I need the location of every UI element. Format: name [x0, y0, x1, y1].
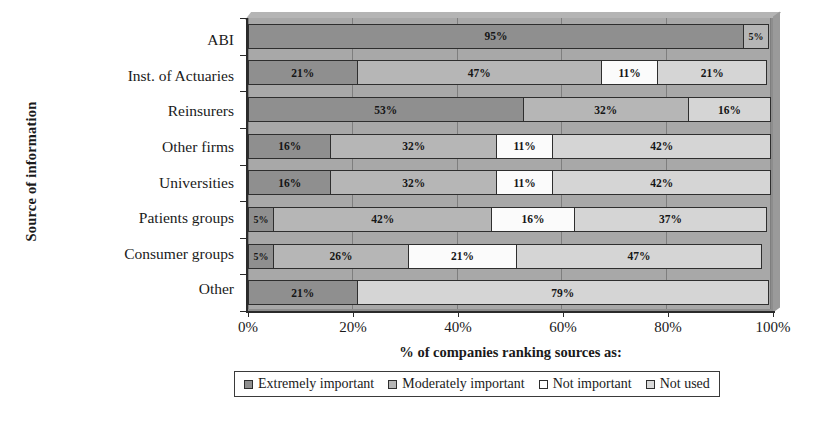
legend-item[interactable]: Not important — [539, 376, 632, 392]
bar-segment[interactable]: 79% — [357, 280, 769, 305]
bar-segment[interactable]: 95% — [248, 24, 744, 49]
y-tick-mark — [240, 201, 247, 202]
chart-legend: Extremely importantModerately importantN… — [234, 371, 720, 397]
bar-segment-label: 16% — [278, 140, 301, 152]
y-tick-mark — [240, 55, 247, 56]
bar-segment[interactable]: 11% — [601, 60, 658, 85]
bar-row[interactable]: 5%42%16%37% — [248, 207, 770, 232]
bar-segment-label: 95% — [484, 30, 507, 42]
y-tick-mark — [240, 238, 247, 239]
y-tick-mark — [240, 128, 247, 129]
bar-row[interactable]: 5%26%21%47% — [248, 244, 770, 269]
bar-segment-label: 11% — [513, 140, 535, 152]
y-tick-mark — [240, 274, 247, 275]
y-axis-line — [246, 18, 248, 313]
bar-segment[interactable]: 53% — [248, 97, 524, 122]
bar-segment-label: 21% — [291, 287, 314, 299]
y-axis-category-label: Inst. of Actuaries — [40, 58, 242, 94]
bar-segment[interactable]: 21% — [408, 244, 518, 269]
bar-row[interactable]: 95%5% — [248, 24, 770, 49]
x-tick-label: 40% — [444, 319, 472, 336]
plot-area: 95%5%21%47%11%21%53%32%16%16%32%11%42%16… — [248, 18, 773, 311]
y-axis-category-label: Consumer groups — [40, 236, 242, 272]
legend-swatch-icon — [539, 380, 548, 389]
x-tick-label: 80% — [654, 319, 682, 336]
x-tick-label: 100% — [756, 319, 791, 336]
y-axis-category-label: Patients groups — [40, 200, 242, 236]
bar-segment[interactable]: 47% — [516, 244, 761, 269]
bar-row[interactable]: 16%32%11%42% — [248, 170, 770, 195]
bar-segment-label: 37% — [659, 213, 682, 225]
bar-segment-label: 42% — [650, 140, 673, 152]
x-tick-mark — [458, 311, 459, 317]
bar-segment-label: 42% — [650, 177, 673, 189]
legend-swatch-icon — [388, 380, 397, 389]
bar-segment-label: 47% — [628, 250, 651, 262]
bar-segment-label: 32% — [402, 140, 425, 152]
y-axis-category-label: Universities — [40, 165, 242, 201]
y-axis-category-label: Other — [40, 271, 242, 307]
bar-segment[interactable]: 21% — [657, 60, 767, 85]
bar-segment-label: 32% — [402, 177, 425, 189]
bar-segment[interactable]: 11% — [496, 134, 553, 159]
bar-segment[interactable]: 32% — [330, 134, 497, 159]
gridline — [770, 18, 771, 309]
bar-segment[interactable]: 16% — [248, 170, 331, 195]
x-tick-mark — [668, 311, 669, 317]
bar-segment-label: 11% — [618, 67, 640, 79]
legend-item[interactable]: Moderately important — [388, 376, 524, 392]
bar-segment-label: 79% — [551, 287, 574, 299]
bar-segment[interactable]: 47% — [357, 60, 602, 85]
legend-item-label: Moderately important — [402, 376, 524, 392]
bar-segment-label: 32% — [594, 104, 617, 116]
bar-segment-label: 47% — [468, 67, 491, 79]
bar-segment[interactable]: 42% — [552, 170, 771, 195]
bar-segment[interactable]: 21% — [248, 280, 358, 305]
bar-segment[interactable]: 32% — [523, 97, 689, 122]
bar-segment[interactable]: 5% — [248, 207, 274, 232]
bar-row[interactable]: 21%79% — [248, 280, 770, 305]
bar-segment-label: 21% — [291, 67, 314, 79]
bar-row[interactable]: 16%32%11%42% — [248, 134, 770, 159]
bar-segment[interactable]: 26% — [273, 244, 409, 269]
x-tick-mark — [773, 311, 774, 317]
y-axis-category-labels: ABIInst. of ActuariesReinsurersOther fir… — [40, 22, 242, 307]
stacked-bar-chart: Source of information ABIInst. of Actuar… — [0, 0, 815, 429]
bar-segment[interactable]: 42% — [552, 134, 771, 159]
bar-segment-label: 5% — [254, 214, 269, 225]
bar-segment[interactable]: 11% — [496, 170, 553, 195]
bar-segment[interactable]: 37% — [574, 207, 767, 232]
bar-segment-label: 11% — [513, 177, 535, 189]
bar-segment[interactable]: 32% — [330, 170, 497, 195]
bar-segment-label: 16% — [278, 177, 301, 189]
bar-segment[interactable]: 16% — [491, 207, 575, 232]
x-tick-label: 60% — [549, 319, 577, 336]
y-axis-category-label: Other firms — [40, 129, 242, 165]
bar-segment[interactable]: 5% — [248, 244, 274, 269]
legend-item-label: Extremely important — [258, 376, 374, 392]
bar-segment-label: 21% — [451, 250, 474, 262]
bars-layer: 95%5%21%47%11%21%53%32%16%16%32%11%42%16… — [248, 18, 770, 309]
bar-segment[interactable]: 5% — [743, 24, 769, 49]
legend-item-label: Not important — [553, 376, 632, 392]
bar-row[interactable]: 53%32%16% — [248, 97, 770, 122]
bar-segment[interactable]: 16% — [688, 97, 771, 122]
x-tick-mark — [353, 311, 354, 317]
y-axis-category-label: ABI — [40, 22, 242, 58]
bar-segment-label: 16% — [718, 104, 741, 116]
legend-swatch-icon — [646, 380, 655, 389]
bar-segment-label: 5% — [748, 31, 763, 42]
legend-swatch-icon — [244, 380, 253, 389]
legend-item[interactable]: Not used — [646, 376, 710, 392]
bar-segment[interactable]: 42% — [273, 207, 492, 232]
y-tick-mark — [240, 165, 247, 166]
bar-row[interactable]: 21%47%11%21% — [248, 60, 770, 85]
bar-segment-label: 5% — [254, 251, 269, 262]
x-axis-title: % of companies ranking sources as: — [248, 344, 773, 361]
legend-item[interactable]: Extremely important — [244, 376, 374, 392]
bar-segment[interactable]: 21% — [248, 60, 358, 85]
bar-segment[interactable]: 16% — [248, 134, 331, 159]
y-tick-mark — [240, 18, 247, 19]
y-axis-category-label: Reinsurers — [40, 93, 242, 129]
x-tick-label: 20% — [339, 319, 367, 336]
